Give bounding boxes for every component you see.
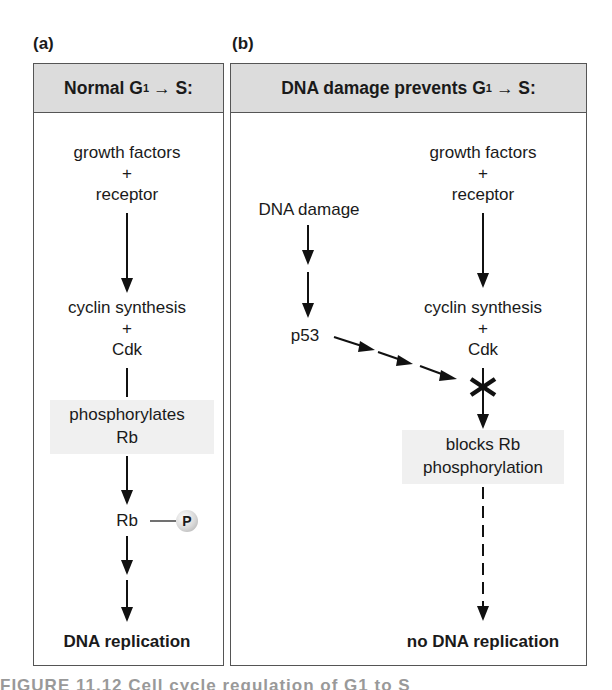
arrowhead-icon: [396, 355, 413, 366]
arrowhead-icon: [439, 370, 457, 381]
arrowhead-icon: [121, 490, 133, 505]
arrowhead-icon: [477, 273, 489, 288]
arrowhead-icon: [302, 303, 314, 318]
arrowhead-icon: [302, 250, 314, 265]
arrowhead-icon: [477, 606, 489, 621]
figure-caption: FIGURE 11.12 Cell cycle regulation of G1…: [0, 676, 612, 690]
arrowhead-icon: [121, 607, 133, 622]
arrowhead-icon: [121, 560, 133, 575]
arrowhead-icon: [477, 414, 489, 429]
arrowhead-icon: [121, 278, 133, 293]
arrowhead-icon: [358, 341, 375, 352]
